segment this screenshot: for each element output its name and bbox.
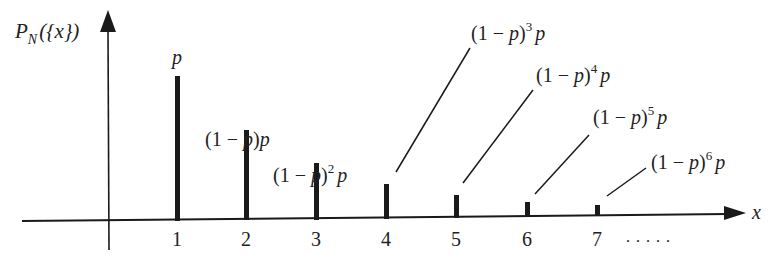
label-bar-3: (1 − p)2p <box>273 161 347 187</box>
geometric-pmf-diagram: x PN({x}) 1 2 3 4 5 6 7 . . . . . <box>0 0 769 260</box>
label-bar-7: (1 − p)6p <box>651 148 725 174</box>
tick-2: 2 <box>241 228 251 250</box>
label-bar-5: (1 − p)4p <box>536 61 610 87</box>
tick-3: 3 <box>311 228 321 250</box>
tick-1: 1 <box>172 228 182 250</box>
continuation-dots: . . . . . <box>626 228 671 245</box>
bar-5 <box>454 195 459 218</box>
bar-labels: p (1 − p)p (1 − p)2p (1 − p)3p (1 − p)4p… <box>170 19 725 187</box>
bar-1 <box>175 76 180 221</box>
tick-labels: 1 2 3 4 5 6 7 . . . . . <box>172 228 671 250</box>
bar-7 <box>595 205 600 216</box>
x-axis-arrow-icon <box>724 206 746 220</box>
x-axis: x <box>22 201 761 223</box>
label-bar-6: (1 − p)5p <box>593 103 667 129</box>
label-bar-4: (1 − p)3p <box>471 19 545 45</box>
y-axis-label: PN({x}) <box>14 19 79 47</box>
label-bar-2: (1 − p)p <box>205 128 270 151</box>
tick-6: 6 <box>522 228 532 250</box>
tick-7: 7 <box>592 228 602 250</box>
y-axis-arrow-icon <box>100 10 116 32</box>
y-axis: PN({x}) <box>14 10 116 250</box>
bar-4 <box>384 184 389 219</box>
x-axis-label: x <box>751 201 761 223</box>
tick-4: 4 <box>381 228 391 250</box>
label-bar-1: p <box>170 46 182 69</box>
tick-5: 5 <box>451 228 461 250</box>
bar-6 <box>525 202 530 217</box>
